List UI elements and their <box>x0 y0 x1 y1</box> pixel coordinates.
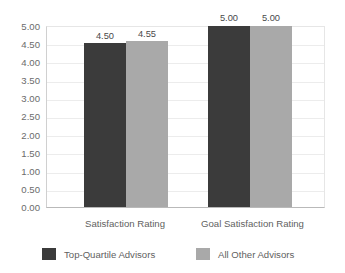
bar-value-label: 5.00 <box>250 13 292 23</box>
y-axis-tick-label: 0.50 <box>2 184 40 195</box>
bar-all-other-goal-satisfaction <box>250 26 292 207</box>
bar-top-quartile-satisfaction <box>84 43 126 207</box>
legend-item-top-quartile-advisors: Top-Quartile Advisors <box>42 248 155 260</box>
x-axis-category-label: Satisfaction Rating <box>55 218 195 229</box>
y-axis-tick-label: 1.00 <box>2 166 40 177</box>
y-axis-tick-label: 1.50 <box>2 148 40 159</box>
legend-item-all-other-advisors: All Other Advisors <box>196 248 294 260</box>
bar-value-label: 4.55 <box>126 29 168 39</box>
legend-label: Top-Quartile Advisors <box>64 249 155 260</box>
bar-chart: 5.00 4.50 4.00 3.50 3.00 2.50 2.00 1.50 … <box>0 0 345 273</box>
y-axis-tick-label: 5.00 <box>2 21 40 32</box>
y-axis-tick-label: 3.00 <box>2 93 40 104</box>
bar-all-other-satisfaction <box>126 41 168 207</box>
legend-label: All Other Advisors <box>218 249 294 260</box>
y-axis-tick-label: 0.00 <box>2 202 40 213</box>
bar-value-label: 5.00 <box>208 13 250 23</box>
y-axis-tick-label: 2.00 <box>2 130 40 141</box>
bar-value-label: 4.50 <box>84 31 126 41</box>
bar-top-quartile-goal-satisfaction <box>208 26 250 207</box>
legend-swatch-icon <box>42 248 56 260</box>
y-axis-tick-label: 2.50 <box>2 111 40 122</box>
y-axis-tick-label: 4.00 <box>2 57 40 68</box>
x-axis-category-label: Goal Satisfaction Rating <box>180 218 325 229</box>
plot-area <box>46 26 325 208</box>
legend-swatch-icon <box>196 248 210 260</box>
y-axis-tick-label: 4.50 <box>2 39 40 50</box>
y-axis-tick-label: 3.50 <box>2 75 40 86</box>
